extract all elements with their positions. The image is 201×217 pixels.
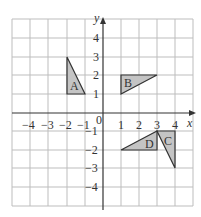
triangle-d-label: D	[145, 137, 154, 151]
triangle-a-label: A	[70, 79, 79, 93]
triangle-c-label: C	[164, 134, 172, 148]
y-axis-label: y	[93, 11, 100, 25]
x-axis-label: x	[186, 116, 193, 130]
x-tick: 3	[154, 118, 160, 132]
y-tick: −4	[85, 180, 98, 194]
y-tick: −1	[85, 124, 98, 138]
y-tick: 2	[93, 68, 99, 82]
x-tick: 1	[118, 118, 124, 132]
y-tick: −2	[85, 143, 98, 157]
coordinate-grid-diagram: x y 0 −4 −3 −2 −1 1 2 3 4 4 3 2 1 −1 −2 …	[0, 0, 201, 217]
x-tick: −4	[22, 118, 35, 132]
y-tick: 3	[93, 50, 99, 64]
x-tick: −2	[59, 118, 72, 132]
y-tick: 1	[93, 87, 99, 101]
axes	[12, 19, 193, 210]
x-tick: 2	[136, 118, 142, 132]
x-tick: 4	[172, 118, 178, 132]
x-tick: −3	[41, 118, 54, 132]
y-axis-arrow-icon	[100, 17, 106, 24]
y-tick: −3	[85, 161, 98, 175]
y-tick: 4	[93, 31, 99, 45]
triangle-b-label: B	[124, 76, 132, 90]
